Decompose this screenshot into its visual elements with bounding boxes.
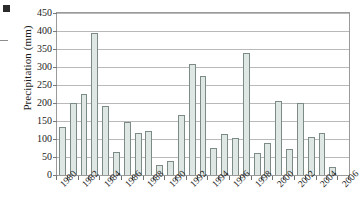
y-axis-tick-label: 350 [37,43,52,54]
y-axis-tick-label: 50 [42,151,52,162]
bar [70,103,77,175]
bar [59,127,66,175]
y-axis-tick-label: 0 [47,169,52,180]
bar [124,122,131,175]
bar [91,33,98,175]
bar [254,153,261,175]
y-axis-tick-label: 150 [37,115,52,126]
plot-area [56,12,350,176]
y-axis-tick-label: 400 [37,25,52,36]
bar [189,64,196,175]
bar [232,138,239,175]
bar [167,161,174,175]
page-edge-tick-icon [0,40,8,41]
y-axis-tick-label: 300 [37,61,52,72]
bar [178,115,185,175]
y-axis-tick-label: 200 [37,97,52,108]
page-edge-marker-icon [3,5,10,12]
y-axis-tick-label: 450 [37,7,52,18]
y-axis-tick-labels: 050100150200250300350400450 [26,12,52,176]
bar [275,101,282,175]
bar [210,148,217,175]
bar [243,53,250,175]
precipitation-bar-chart: Precipitation (mm) 050100150200250300350… [0,0,359,217]
bar [145,131,152,175]
y-axis-tick-label: 250 [37,79,52,90]
bar [297,103,304,175]
bar [102,106,109,175]
bar [319,133,326,175]
bars-series [57,13,349,175]
y-axis-tick-label: 100 [37,133,52,144]
bar [81,94,88,175]
bar [200,76,207,175]
x-axis-tick-labels: 1980198219841986198819901992199419961998… [56,180,350,217]
